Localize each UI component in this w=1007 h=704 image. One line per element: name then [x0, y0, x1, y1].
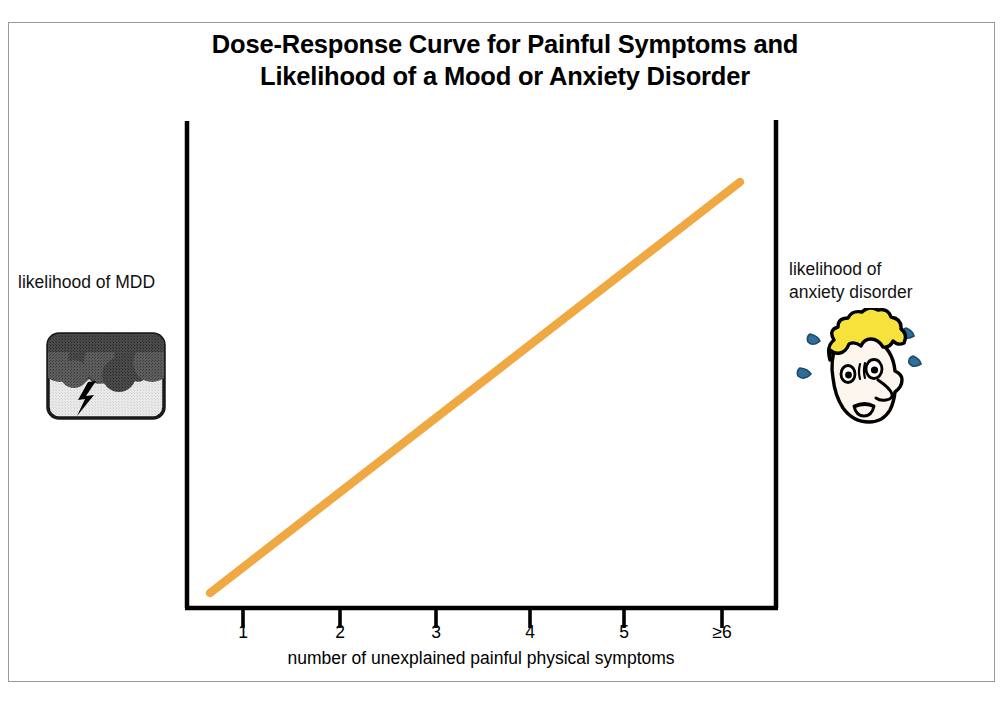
right-axis-annotation-line-1: likelihood of	[789, 258, 913, 281]
left-eye-pupil	[845, 372, 852, 379]
x-tick-label-1: 1	[238, 622, 248, 643]
worry-line-1	[859, 364, 860, 379]
dose-response-line	[210, 182, 740, 593]
storm-cloud-lightning-icon	[44, 330, 168, 422]
sweat-droplet-right-lower	[909, 356, 921, 366]
x-tick-label-2: 2	[335, 622, 345, 643]
worry-line-2	[864, 363, 865, 378]
left-axis-annotation: likelihood of MDD	[18, 272, 155, 293]
x-tick-label-3: 3	[431, 622, 441, 643]
x-tick-label-5: 5	[619, 622, 629, 643]
right-eye-pupil	[871, 366, 878, 373]
x-axis-ticks	[243, 608, 722, 628]
figure-root: Dose-Response Curve for Painful Symptoms…	[0, 0, 1007, 704]
right-axis-annotation: likelihood of anxiety disorder	[789, 258, 913, 305]
anxious-face-icon	[792, 308, 924, 430]
right-axis-annotation-line-2: anxiety disorder	[789, 281, 913, 304]
sweat-droplet-left-lower	[797, 368, 811, 378]
x-tick-label-6: ≥6	[712, 622, 731, 643]
cloud-lobe-6	[102, 358, 136, 392]
x-tick-label-4: 4	[525, 622, 535, 643]
x-axis-title: number of unexplained painful physical s…	[186, 648, 776, 669]
sweat-droplet-left-upper	[807, 334, 820, 344]
cloud-lobe-7	[60, 360, 88, 388]
